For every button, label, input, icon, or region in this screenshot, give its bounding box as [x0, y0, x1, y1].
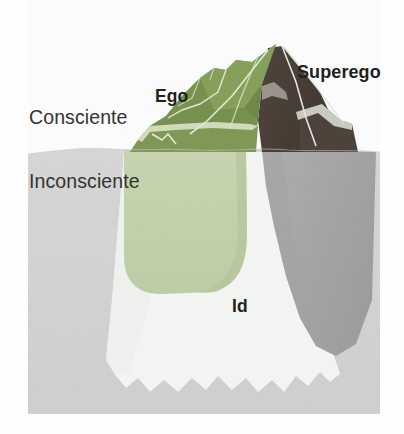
label-unconscious: Inconsciente	[29, 172, 140, 192]
label-ego: Ego	[155, 88, 188, 106]
label-id: Id	[232, 298, 248, 316]
iceberg-figure: Consciente Inconsciente Ego Superego Id	[0, 0, 404, 434]
label-superego: Superego	[297, 63, 381, 81]
label-conscious: Consciente	[29, 108, 128, 128]
